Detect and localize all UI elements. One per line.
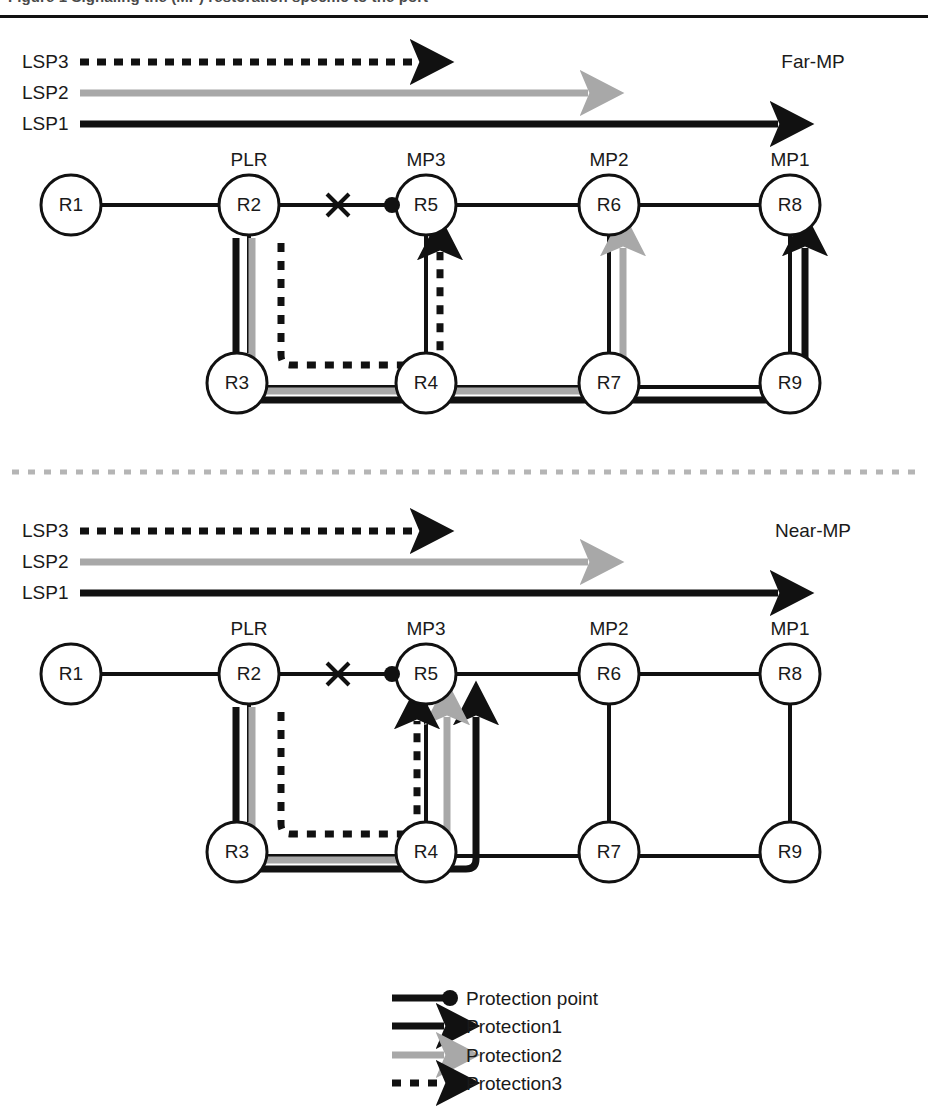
legend-label-protection-point: Protection point bbox=[466, 988, 599, 1009]
figure-root: Figure 1 Signaling the (MP) restoration … bbox=[0, 0, 928, 1109]
node-r6-far[interactable]: R6 MP2 bbox=[579, 149, 639, 235]
node-label: R5 bbox=[414, 194, 438, 215]
node-label: R1 bbox=[59, 663, 83, 684]
node-r4-near[interactable]: R4 bbox=[396, 822, 456, 882]
section-near-mp: LSP3 LSP2 LSP1 Near-MP bbox=[22, 520, 851, 882]
node-label: R3 bbox=[225, 372, 249, 393]
node-r2-near[interactable]: R2 PLR bbox=[219, 618, 279, 704]
node-r9-near[interactable]: R9 bbox=[760, 822, 820, 882]
lsp-legend-near: LSP3 LSP2 LSP1 Near-MP bbox=[22, 520, 851, 603]
node-label: R9 bbox=[778, 841, 802, 862]
lsp-legend-far: LSP3 LSP2 LSP1 Far-MP bbox=[22, 51, 845, 134]
node-label: R6 bbox=[597, 194, 621, 215]
node-r1-far[interactable]: R1 bbox=[41, 175, 101, 235]
node-label: R2 bbox=[237, 194, 261, 215]
node-r6-near[interactable]: R6 MP2 bbox=[579, 618, 639, 704]
legend-label-protection2: Protection2 bbox=[466, 1045, 562, 1066]
node-r5-near[interactable]: R5 MP3 bbox=[396, 618, 456, 704]
node-label: R7 bbox=[597, 841, 621, 862]
role-label-mp2: MP2 bbox=[589, 618, 628, 639]
node-r3-far[interactable]: R3 bbox=[207, 353, 267, 413]
section-label-near-mp: Near-MP bbox=[775, 520, 851, 541]
node-label: R5 bbox=[414, 663, 438, 684]
diagram-legend: Protection point Protection1 Protection2… bbox=[392, 988, 599, 1094]
node-r8-far[interactable]: R8 MP1 bbox=[760, 149, 820, 235]
lsp3-label-far: LSP3 bbox=[22, 51, 68, 72]
role-label-plr: PLR bbox=[231, 618, 268, 639]
node-label: R8 bbox=[778, 194, 802, 215]
node-label: R6 bbox=[597, 663, 621, 684]
node-r7-far[interactable]: R7 bbox=[579, 353, 639, 413]
node-r7-near[interactable]: R7 bbox=[579, 822, 639, 882]
lsp3-label-near: LSP3 bbox=[22, 520, 68, 541]
legend-item-protection-point: Protection point bbox=[392, 988, 599, 1009]
legend-item-protection1: Protection1 bbox=[392, 1016, 562, 1037]
section-label-far-mp: Far-MP bbox=[781, 51, 844, 72]
node-label: R2 bbox=[237, 663, 261, 684]
node-r3-near[interactable]: R3 bbox=[207, 822, 267, 882]
section-far-mp: LSP3 LSP2 LSP1 Far-MP bbox=[22, 51, 845, 413]
protection3-path-far bbox=[281, 243, 440, 365]
protection-point-dot-far bbox=[384, 197, 400, 213]
node-r1-near[interactable]: R1 bbox=[41, 644, 101, 704]
node-label: R9 bbox=[778, 372, 802, 393]
node-r5-far[interactable]: R5 MP3 bbox=[396, 149, 456, 235]
protection-point-dot-near bbox=[384, 666, 400, 682]
lsp2-label-far: LSP2 bbox=[22, 82, 68, 103]
legend-dot-icon bbox=[442, 990, 458, 1006]
protection1-path-far bbox=[236, 238, 805, 400]
node-label: R7 bbox=[597, 372, 621, 393]
node-r9-far[interactable]: R9 bbox=[760, 353, 820, 413]
node-label: R8 bbox=[778, 663, 802, 684]
node-label: R4 bbox=[414, 372, 439, 393]
legend-item-protection2: Protection2 bbox=[392, 1045, 562, 1066]
role-label-mp3: MP3 bbox=[406, 149, 445, 170]
protection3-path-near bbox=[281, 712, 417, 834]
lsp1-label-far: LSP1 bbox=[22, 113, 68, 134]
role-label-mp2: MP2 bbox=[589, 149, 628, 170]
node-label: R3 bbox=[225, 841, 249, 862]
node-label: R1 bbox=[59, 194, 83, 215]
node-r8-near[interactable]: R8 MP1 bbox=[760, 618, 820, 704]
legend-label-protection3: Protection3 bbox=[466, 1073, 562, 1094]
role-label-mp1: MP1 bbox=[770, 149, 809, 170]
legend-item-protection3: Protection3 bbox=[392, 1073, 562, 1094]
node-r2-far[interactable]: R2 PLR bbox=[219, 149, 279, 235]
legend-label-protection1: Protection1 bbox=[466, 1016, 562, 1037]
diagram-canvas: LSP3 LSP2 LSP1 Far-MP bbox=[0, 0, 928, 1109]
lsp1-label-near: LSP1 bbox=[22, 582, 68, 603]
role-label-mp1: MP1 bbox=[770, 618, 809, 639]
role-label-mp3: MP3 bbox=[406, 618, 445, 639]
node-label: R4 bbox=[414, 841, 439, 862]
lsp2-label-near: LSP2 bbox=[22, 551, 68, 572]
node-r4-far[interactable]: R4 bbox=[396, 353, 456, 413]
role-label-plr: PLR bbox=[231, 149, 268, 170]
